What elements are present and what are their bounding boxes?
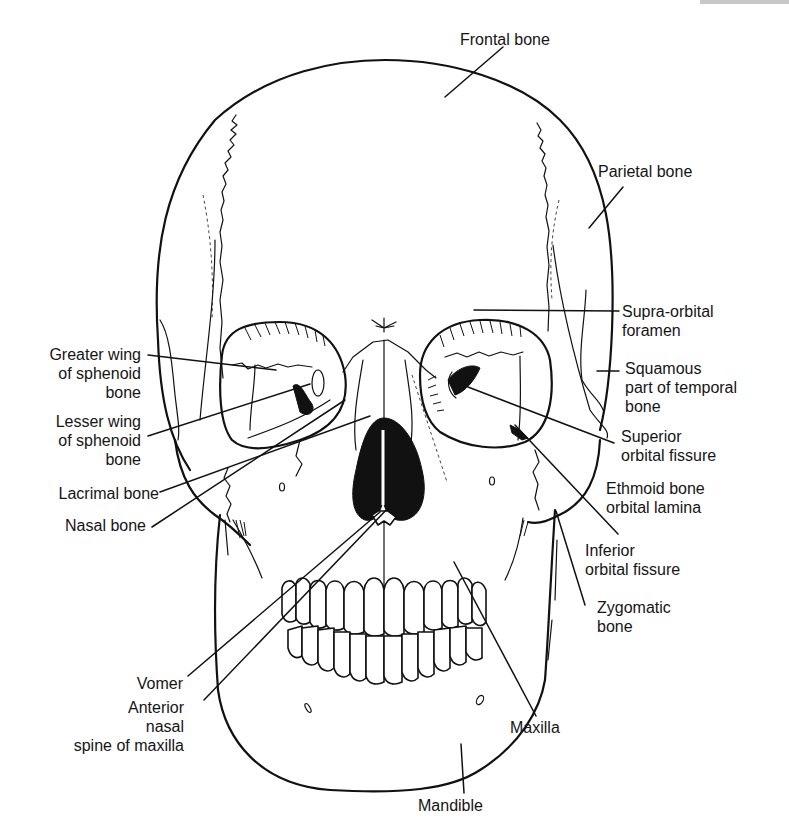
label-parietal-bone: Parietal bone bbox=[598, 162, 692, 181]
label-greater-wing-sphenoid: Greater wing of sphenoid bone bbox=[49, 345, 141, 402]
right-coronal-suture bbox=[537, 123, 549, 331]
label-supra-orbital-foramen: Supra-orbital foramen bbox=[622, 302, 714, 340]
label-nasal-bone: Nasal bone bbox=[65, 516, 146, 535]
label-lesser-wing-sphenoid: Lesser wing of sphenoid bone bbox=[56, 412, 141, 469]
label-zygomatic-bone: Zygomatic bone bbox=[597, 598, 671, 636]
label-squamous-temporal: Squamous part of temporal bone bbox=[625, 359, 737, 416]
label-lacrimal-bone: Lacrimal bone bbox=[59, 484, 160, 503]
label-mandible: Mandible bbox=[418, 796, 483, 815]
left-orbit bbox=[220, 322, 346, 448]
right-orbit bbox=[420, 320, 552, 448]
label-anterior-nasal-spine: Anterior nasal spine of maxilla bbox=[74, 698, 184, 755]
label-maxilla: Maxilla bbox=[510, 718, 560, 737]
label-vomer: Vomer bbox=[137, 674, 183, 693]
cranium-outline bbox=[157, 60, 613, 470]
skull-anterior-diagram: Frontal bone Parietal bone Supra-orbital… bbox=[0, 0, 789, 832]
label-inferior-orbital-fissure: Inferior orbital fissure bbox=[585, 541, 680, 579]
nasal-aperture bbox=[353, 418, 424, 520]
label-ethmoid-orbital-lamina: Ethmoid bone orbital lamina bbox=[606, 479, 705, 517]
label-superior-orbital-fissure: Superior orbital fissure bbox=[621, 427, 716, 465]
label-frontal-bone: Frontal bone bbox=[460, 30, 550, 49]
lower-teeth bbox=[288, 626, 482, 684]
